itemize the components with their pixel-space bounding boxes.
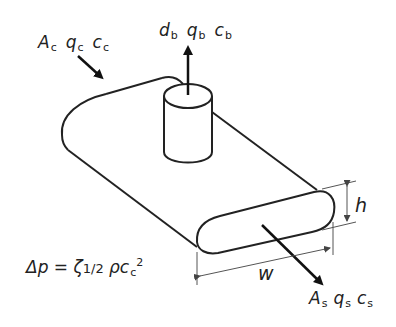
pressure-drop-formula: Δp = ζ1/2 ρcc2 xyxy=(26,256,143,279)
inlet-label: Acqccc xyxy=(38,32,109,54)
outlet-label: Asqscs xyxy=(309,288,373,310)
diagram-canvas: Acqccc dbqbcb Asqscs h w Δp = ζ1/2 ρcc2 xyxy=(0,0,396,327)
width-label: w xyxy=(258,262,274,284)
branch-label: dbqbcb xyxy=(159,20,232,42)
branch-cylinder xyxy=(164,84,212,163)
height-label: h xyxy=(355,194,367,216)
inlet-arrow xyxy=(78,56,100,76)
